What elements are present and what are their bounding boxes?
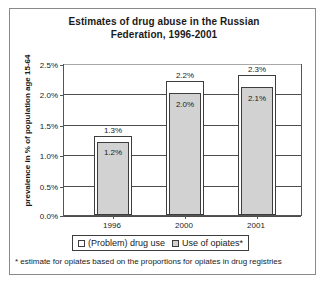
xtick-label-2000: 2000 [153, 221, 215, 230]
value-label-use-of-opiates-2001: 2.1% [241, 94, 273, 103]
ytick-label-0.5: 0.5% [40, 182, 58, 191]
plot-wrapper: 2.5% 2.0% 1.5% 1.0% 0.5% 0.0% [63, 64, 302, 216]
legend-swatch-icon-use-of-opiates [172, 240, 179, 247]
legend-label-use-of-opiates: Use of opiates* [182, 238, 243, 248]
legend-label-problem-drug-use: (Problem) drug use [88, 238, 165, 248]
bar-group-2000: 2.2% 2.0% [154, 64, 216, 215]
value-label-problem-drug-use-1996: 1.3% [82, 126, 144, 135]
chart-figure: Estimates of drug abuse in the Russian F… [9, 8, 316, 275]
ytick-label-1.0: 1.0% [40, 152, 58, 161]
ytick-mark-0.5 [60, 187, 64, 188]
xtick-label-1996: 1996 [81, 221, 143, 230]
legend-entry-use-of-opiates[interactable]: Use of opiates* [172, 238, 243, 248]
ytick-mark-2.5 [60, 65, 64, 66]
value-label-use-of-opiates-1996: 1.2% [97, 148, 129, 157]
plot-area: 2.5% 2.0% 1.5% 1.0% 0.5% 0.0% [63, 64, 302, 216]
ytick-mark-1.5 [60, 126, 64, 127]
ytick-label-2.5: 2.5% [40, 61, 58, 70]
legend-entry-problem-drug-use[interactable]: (Problem) drug use [78, 238, 165, 248]
value-label-problem-drug-use-2000: 2.2% [154, 71, 216, 80]
xtick-mark-2000 [185, 215, 186, 219]
xtick-mark-1996 [113, 215, 114, 219]
chart-legend: (Problem) drug use Use of opiates* [72, 235, 249, 251]
bar-group-2001: 2.3% 2.1% [226, 64, 288, 215]
chart-title-line-1: Estimates of drug abuse in the Russian [28, 15, 300, 28]
y-axis-title: prevalence in % of population age 15-64 [23, 51, 32, 211]
chart-title-line-2: Federation, 1996-2001 [28, 28, 300, 41]
legend-swatch-icon-problem-drug-use [78, 240, 85, 247]
x-axis-labels: 1996 2000 2001 [63, 221, 302, 233]
xtick-mark-2001 [257, 215, 258, 219]
bar-group-1996: 1.3% 1.2% [82, 64, 144, 215]
ytick-label-0.0: 0.0% [40, 212, 58, 221]
chart-title: Estimates of drug abuse in the Russian F… [28, 15, 300, 41]
value-label-use-of-opiates-2000: 2.0% [169, 100, 201, 109]
gridline-0.0: 0.0% [64, 216, 301, 217]
chart-footnote: * estimate for opiates based on the prop… [15, 256, 307, 267]
ytick-label-2.0: 2.0% [40, 91, 58, 100]
ytick-mark-1.0 [60, 156, 64, 157]
ytick-mark-0.0 [60, 216, 64, 217]
bar-use-of-opiates-2001[interactable] [241, 87, 273, 215]
xtick-label-2001: 2001 [225, 221, 287, 230]
bar-use-of-opiates-2000[interactable] [169, 93, 201, 215]
ytick-label-1.5: 1.5% [40, 121, 58, 130]
ytick-mark-2.0 [60, 95, 64, 96]
value-label-problem-drug-use-2001: 2.3% [226, 65, 288, 74]
